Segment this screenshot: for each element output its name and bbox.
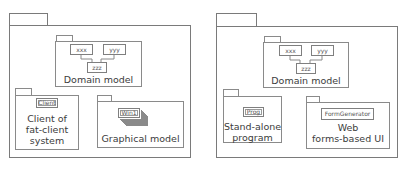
standalone-package-label-1: Stand-alone <box>223 121 282 132</box>
class-zzz: zzz <box>296 63 316 74</box>
class-prog: Prog <box>243 107 264 117</box>
client-package-label-2: fat-client <box>15 124 79 135</box>
class-xxx: xxx <box>279 45 302 56</box>
standalone-package-label-2: program <box>223 132 282 143</box>
class-xxx: xxx <box>70 44 93 55</box>
class-client: Client <box>36 98 58 108</box>
webforms-package-label-2: forms-based UI <box>306 133 390 144</box>
domain-package-label: Domain model <box>55 74 142 85</box>
class-yyy: yyy <box>103 44 126 55</box>
webforms-package-label-1: Web <box>306 122 390 133</box>
class-yyy: yyy <box>311 45 334 56</box>
domain-package-label: Domain model <box>263 75 349 86</box>
outer-package-tab <box>216 13 257 27</box>
graphical-package-label: Graphical model <box>97 133 184 144</box>
class-formgenerator: FormGenerator <box>321 108 374 120</box>
class-zzz: zzz <box>87 62 107 73</box>
client-package-label-1: Client of <box>15 113 79 124</box>
class-win1: Win1 <box>118 108 140 118</box>
client-package-label-3: system <box>15 135 79 146</box>
